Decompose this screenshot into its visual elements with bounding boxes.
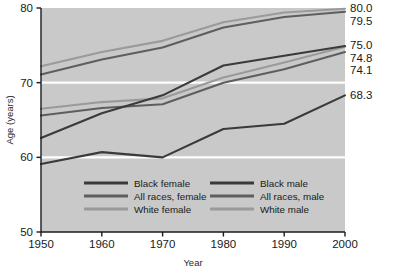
x-tick-label: 2000 [332, 238, 358, 250]
end-value-label: 75.0 [350, 39, 372, 51]
y-tick-label: 80 [20, 2, 33, 14]
legend-label: Black female [134, 178, 191, 189]
legend-label: Black male [260, 178, 308, 189]
legend-label: All races, male [260, 191, 325, 202]
x-axis-title: Year [183, 257, 202, 268]
x-tick-label: 1950 [28, 238, 54, 250]
y-axis-title: Age (years) [4, 95, 15, 144]
x-tick-label: 1960 [89, 238, 115, 250]
end-value-label: 79.5 [350, 15, 372, 27]
y-tick-label: 50 [20, 226, 33, 238]
x-tick-label: 1980 [211, 238, 237, 250]
y-tick-label: 70 [20, 77, 33, 89]
legend-label: White male [260, 204, 310, 215]
end-value-label: 74.1 [350, 64, 372, 76]
life-expectancy-line-chart: 50607080 195019601970198019902000 80.079… [0, 0, 393, 271]
x-tick-label: 1970 [150, 238, 176, 250]
legend-label: White female [134, 204, 192, 215]
legend-label: All races, female [134, 191, 207, 202]
chart-canvas: 50607080 195019601970198019902000 80.079… [0, 0, 393, 271]
end-value-label: 80.0 [350, 2, 372, 14]
x-tick-label: 1990 [271, 238, 297, 250]
end-value-label: 68.3 [350, 89, 372, 101]
y-tick-label: 60 [20, 151, 33, 163]
end-value-label: 74.8 [350, 52, 372, 64]
